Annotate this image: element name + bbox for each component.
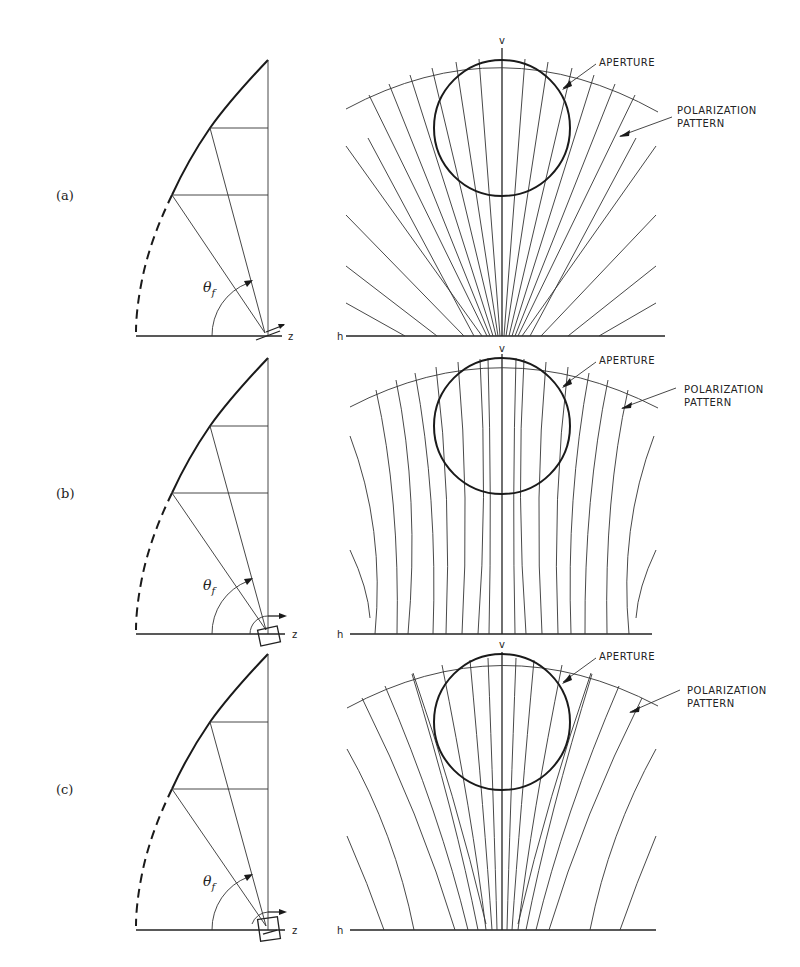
reflector-extension-dashed: [136, 789, 172, 926]
v-axis-label: v: [499, 35, 505, 46]
horn-feed-icon: [250, 613, 287, 646]
arrowhead-icon: [629, 706, 640, 713]
polarization-label-line2: PATTERN: [687, 698, 735, 709]
figure-canvas: (a) θf z v h: [0, 0, 800, 967]
aperture-label: APERTURE: [599, 651, 655, 662]
polarization-label-line2: PATTERN: [677, 118, 725, 129]
theta-label: θf: [203, 279, 217, 298]
reflector-extension-dashed: [136, 195, 172, 332]
panel-label: (c): [56, 782, 73, 797]
v-axis-label: v: [499, 639, 505, 650]
reflector-arc: [172, 358, 268, 493]
reflector-arc: [172, 654, 268, 789]
polarization-pattern: v h APERTURE: [337, 35, 757, 342]
theta-arrowhead-icon: [244, 874, 253, 881]
ray-to-focus: [210, 426, 266, 630]
polarization-label-line1: POLARIZATION: [687, 685, 767, 696]
theta-label: θf: [203, 577, 217, 596]
arrowhead-icon: [619, 130, 630, 137]
theta-arc: [212, 877, 248, 930]
reflector-geometry: θf z: [136, 654, 297, 941]
pattern-outer-arc: [350, 368, 658, 408]
panel-label: (a): [56, 188, 74, 203]
panel-label: (b): [56, 486, 74, 501]
reflector-geometry: θf z: [136, 60, 293, 342]
arrowhead-icon: [621, 402, 632, 409]
reflector-arc: [172, 60, 268, 195]
polarization-label-line1: POLARIZATION: [677, 105, 757, 116]
arrowhead-icon: [562, 674, 572, 684]
ray-to-focus: [172, 195, 265, 333]
panel-b: (b) θf z v h: [56, 343, 764, 646]
reflector-geometry: θf z: [136, 358, 297, 646]
aperture-label: APERTURE: [599, 57, 655, 68]
theta-arrowhead-icon: [244, 578, 253, 585]
arrowhead-icon: [562, 378, 572, 388]
pattern-fan-lines: [346, 59, 656, 336]
z-axis-label: z: [288, 331, 293, 342]
theta-label: θf: [203, 873, 217, 892]
h-axis-label: h: [337, 925, 343, 936]
theta-arc: [212, 581, 248, 634]
theta-arc: [212, 283, 248, 336]
ray-to-focus: [172, 493, 266, 630]
ray-to-focus: [210, 722, 266, 926]
polarization-pattern: v h APERTURE POLARIZAT: [337, 343, 764, 640]
z-axis-label: z: [292, 925, 297, 936]
ray-to-focus: [172, 789, 266, 926]
ray-to-focus: [210, 128, 265, 333]
panel-a: (a) θf z v h: [56, 35, 757, 342]
polarization-label-line2: PATTERN: [684, 397, 732, 408]
polarization-label-line1: POLARIZATION: [684, 384, 764, 395]
panel-c: (c) θf z v h: [56, 639, 767, 941]
z-axis-label: z: [292, 629, 297, 640]
h-axis-label: h: [337, 629, 343, 640]
pattern-curved-lines: [350, 358, 656, 634]
v-axis-label: v: [499, 343, 505, 354]
reflector-extension-dashed: [136, 493, 172, 630]
aperture-label: APERTURE: [599, 355, 655, 366]
h-axis-label: h: [337, 331, 343, 342]
polarization-pattern: v h APERTURE POLARIZATION: [337, 639, 767, 936]
